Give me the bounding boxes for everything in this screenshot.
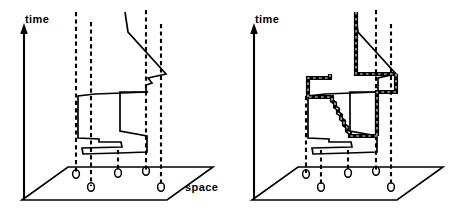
space-axis-label: space xyxy=(185,181,218,193)
figure-canvas: time space xyxy=(0,0,462,218)
time-axis-label-left: time xyxy=(25,13,49,25)
figure-background xyxy=(0,0,462,218)
space-time-path-figure: time space xyxy=(0,0,462,218)
time-axis-label-right: time xyxy=(255,13,279,25)
